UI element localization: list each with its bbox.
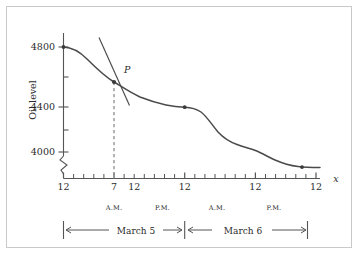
y-axis: 4800 4400 4000 Oil level bbox=[27, 33, 69, 174]
ampm-label-3: P.M. bbox=[267, 204, 282, 212]
x-tick-label-midnight-m6: 12 bbox=[179, 181, 191, 192]
data-point-p bbox=[112, 80, 116, 84]
x-tick-label-0: 12 bbox=[57, 181, 69, 192]
period-ampm-labels: A.M. P.M. A.M. P.M. bbox=[105, 204, 282, 212]
y-axis-title: Oil level bbox=[27, 80, 38, 120]
oil-level-curve bbox=[64, 47, 321, 168]
date-span-brackets: March 5 March 6 bbox=[64, 221, 308, 239]
y-tick-label-4000: 4000 bbox=[31, 146, 55, 157]
x-tick-label-7am: 7 bbox=[111, 181, 117, 192]
y-tick-label-4800: 4800 bbox=[31, 41, 55, 52]
x-axis-title: x bbox=[333, 173, 339, 184]
data-point-midnight-m6 bbox=[183, 105, 187, 109]
data-point-end bbox=[300, 165, 304, 169]
ampm-label-2: A.M. bbox=[208, 204, 226, 212]
figure-container: 4800 4400 4000 Oil level bbox=[0, 0, 361, 258]
x-major-ticks bbox=[64, 173, 317, 179]
x-tick-label-noon-m5: 12 bbox=[128, 181, 140, 192]
date-label-march-5: March 5 bbox=[117, 226, 156, 236]
y-axis-break-zigzag bbox=[60, 156, 67, 174]
data-point-midnight-m5 bbox=[62, 45, 66, 49]
x-minor-ticks bbox=[74, 174, 306, 179]
ampm-label-0: A.M. bbox=[105, 204, 123, 212]
oil-level-chart: 4800 4400 4000 Oil level bbox=[0, 0, 361, 258]
ampm-label-1: P.M. bbox=[155, 204, 170, 212]
point-p-label: P bbox=[123, 64, 131, 75]
x-tick-label-noon-m6: 12 bbox=[249, 181, 261, 192]
x-axis: 12 7 12 12 12 12 x bbox=[57, 173, 339, 193]
x-tick-label-end: 12 bbox=[310, 181, 322, 192]
date-label-march-6: March 6 bbox=[224, 226, 263, 236]
